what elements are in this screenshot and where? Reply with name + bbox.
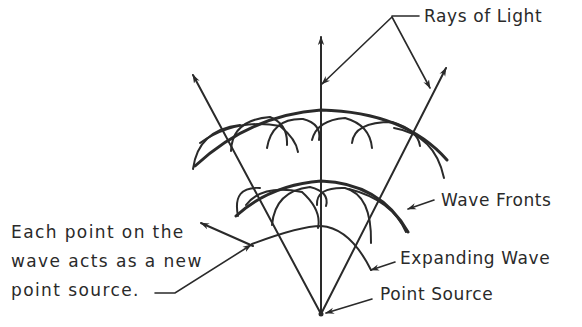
wavelet bbox=[267, 119, 319, 148]
caption-line-1: Each point on the bbox=[11, 218, 203, 247]
wavelet bbox=[246, 190, 319, 228]
ray-right bbox=[321, 68, 446, 314]
wave-fronts-label: Wave Fronts bbox=[441, 192, 552, 209]
expanding-wave-label: Expanding Wave bbox=[400, 250, 550, 267]
rays-leader-right bbox=[392, 17, 430, 88]
point-source-label: Point Source bbox=[380, 286, 493, 303]
expanding-wave-leader bbox=[371, 262, 395, 270]
caption-line-3: point source. bbox=[11, 276, 203, 305]
rays-leader-left bbox=[322, 17, 392, 84]
rays-of-light-label: Rays of Light bbox=[424, 8, 542, 25]
wave-fronts-leader bbox=[408, 200, 434, 209]
secondary-wavelet-arrow bbox=[201, 223, 253, 246]
point-source-dot bbox=[319, 312, 324, 317]
expanding-wave-arc bbox=[252, 226, 371, 270]
caption-line-2: wave acts as a new bbox=[11, 247, 203, 276]
point-source-leader bbox=[326, 299, 372, 313]
each-point-caption: Each point on the wave acts as a new poi… bbox=[11, 218, 203, 305]
